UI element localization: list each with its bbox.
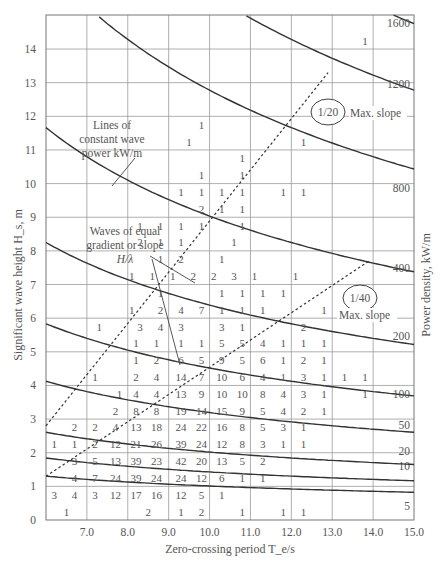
cell-value: 3	[301, 388, 307, 400]
cell-value: 2	[301, 321, 307, 333]
cell-value: 1	[219, 186, 225, 198]
cell-value: 1	[219, 253, 225, 265]
cell-value: 4	[178, 304, 184, 316]
slope-label: gradient or slope	[86, 239, 163, 252]
cell-value: 1	[178, 506, 184, 518]
cell-value: 1	[64, 506, 70, 518]
cell-value: 1	[133, 337, 139, 349]
cell-value: 1	[199, 119, 205, 131]
cell-value: 1	[240, 321, 246, 333]
cell-value: 4	[260, 371, 266, 383]
cell-value: 24	[196, 438, 208, 450]
cell-value: 1	[219, 304, 225, 316]
y-tick: 8	[30, 245, 36, 257]
cell-value: 1	[96, 321, 102, 333]
cell-value: 8	[154, 405, 160, 417]
cell-value: 1	[129, 304, 135, 316]
y-tick: 14	[25, 43, 37, 55]
cell-value: 3	[178, 321, 184, 333]
y-tick: 7	[30, 279, 36, 291]
slope-label: H/λ	[116, 253, 134, 265]
cell-value: 19	[175, 405, 187, 417]
cell-value: 10	[237, 388, 249, 400]
power-contour-lines: 510205010020040080012001600	[46, 15, 414, 512]
cell-value: 2	[145, 506, 151, 518]
cell-value: 16	[216, 421, 228, 433]
cell-value: 13	[130, 421, 142, 433]
x-axis-label: Zero-crossing period T_e/s	[165, 542, 295, 556]
cell-value: 1	[51, 438, 57, 450]
cell-value: 1	[362, 371, 368, 383]
cell-value: 1	[240, 169, 246, 181]
y-axis-label: Significant wave height H_s, m	[11, 209, 25, 361]
x-tick: 12.0	[281, 526, 301, 538]
cell-value: 4	[72, 489, 78, 501]
cell-value: 26	[151, 438, 163, 450]
cell-value: 4	[158, 321, 164, 333]
cell-value: 1	[301, 186, 307, 198]
contour-label: 800	[393, 182, 411, 194]
cell-value: 2	[301, 354, 307, 366]
x-tick: 14.0	[363, 526, 383, 538]
cell-value: 2	[301, 405, 307, 417]
cell-value: 1	[321, 388, 327, 400]
cell-value: 1	[321, 337, 327, 349]
cell-value: 2	[92, 438, 98, 450]
y2-axis-label: Power density, kW/m	[419, 233, 433, 337]
cell-value: 24	[151, 472, 163, 484]
cell-value: 1	[342, 371, 348, 383]
cell-value: 17	[130, 489, 142, 501]
cell-value: 2	[199, 203, 205, 215]
cell-value: 1	[301, 421, 307, 433]
cell-value: 1	[240, 203, 246, 215]
cell-value: 1	[240, 304, 246, 316]
cell-value: 4	[280, 405, 286, 417]
cell-value: 15	[216, 405, 228, 417]
cell-value: 3	[231, 270, 237, 282]
cell-value: 7	[92, 472, 98, 484]
cell-value: 42	[175, 455, 186, 467]
cell-value: 1	[178, 186, 184, 198]
cell-value: 1	[133, 354, 139, 366]
cell-value: 22	[196, 421, 207, 433]
cell-value: 12	[196, 472, 207, 484]
cell-value: 5	[199, 354, 205, 366]
cell-value: 5	[260, 421, 266, 433]
cell-value: 8	[240, 438, 246, 450]
cell-value: 1	[170, 270, 176, 282]
y-tick: 9	[30, 211, 36, 223]
cell-value: 1	[301, 136, 307, 148]
cell-value: 1	[252, 270, 258, 282]
cell-value: 1	[321, 405, 327, 417]
cell-value: 23	[151, 455, 163, 467]
cell-value: 5	[219, 337, 225, 349]
cell-value: 3	[51, 489, 57, 501]
cell-value: 8	[133, 405, 139, 417]
cell-value: 1	[280, 438, 286, 450]
x-tick: 13.0	[322, 526, 342, 538]
y-tick: 1	[30, 480, 36, 492]
x-tick: 10.0	[199, 526, 219, 538]
cell-value: 1	[280, 354, 286, 366]
cell-value: 3	[92, 489, 98, 501]
cell-value: 12	[110, 438, 121, 450]
cell-value: 1	[293, 270, 299, 282]
cell-value: 4	[154, 388, 160, 400]
cell-value: 39	[175, 438, 187, 450]
y-tick: 13	[25, 77, 37, 89]
cell-value: 3	[72, 455, 78, 467]
cell-value: 1	[260, 304, 266, 316]
cell-value: 5	[199, 489, 205, 501]
cell-value: 1	[280, 506, 286, 518]
contour-label: 50	[399, 419, 411, 431]
x-tick: 7.0	[80, 526, 95, 538]
cell-value: 6	[260, 354, 266, 366]
cell-value: 1	[178, 337, 184, 349]
cell-value: 4	[154, 371, 160, 383]
cell-value: 2	[133, 371, 139, 383]
cell-value: 2	[211, 270, 217, 282]
cell-value: 21	[130, 438, 141, 450]
cell-value: 14	[196, 405, 208, 417]
y-tick: 3	[30, 413, 36, 425]
cell-value: 1	[199, 220, 205, 232]
